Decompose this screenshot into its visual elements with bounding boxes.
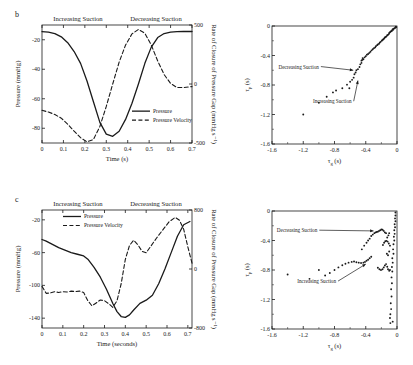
y-tick-label: -20 xyxy=(32,217,40,223)
x-tick-label: 0.1 xyxy=(60,146,68,152)
y-tick-label: -1.6 xyxy=(261,326,271,332)
scatter-point xyxy=(389,313,391,315)
scatter-point xyxy=(366,260,368,262)
annotation-label: Decreasing Suction xyxy=(278,64,319,70)
scatter-point xyxy=(392,321,394,323)
scatter-point xyxy=(385,263,387,265)
scatter-point xyxy=(393,236,395,238)
scatter-point xyxy=(351,261,353,263)
annotation-arrow xyxy=(338,264,366,281)
figure-svg: bIncreasing SuctionDecreasing Suction00.… xyxy=(0,0,413,365)
scatter-point xyxy=(383,242,385,244)
scatter-point xyxy=(353,73,355,75)
scatter-point xyxy=(382,244,384,246)
scatter-point xyxy=(389,317,391,319)
scatter-point xyxy=(353,77,355,79)
scatter-point xyxy=(394,223,396,225)
scatter-point xyxy=(394,212,396,214)
scatter-point xyxy=(384,265,386,267)
scatter-point xyxy=(386,237,388,239)
scatter-point xyxy=(348,87,350,89)
x-tick-label: 0.5 xyxy=(145,146,153,152)
y2-tick-label: 800 xyxy=(194,207,203,213)
x-tick-label: -1.6 xyxy=(267,332,277,338)
scatter-point xyxy=(393,253,395,255)
x-tick-label: 0.2 xyxy=(80,331,88,337)
x-tick-label: -1.6 xyxy=(267,147,277,153)
y-tick-label: -80 xyxy=(32,125,40,131)
scatter-point xyxy=(394,226,396,228)
series-dashed xyxy=(42,217,192,307)
y-tick-label: -100 xyxy=(29,282,40,288)
y-tick-label: -0.8 xyxy=(261,267,271,273)
scatter-point xyxy=(344,263,346,265)
scatter-point xyxy=(372,234,374,236)
scatter-point xyxy=(388,251,390,253)
scatter-point xyxy=(364,56,366,58)
x-tick-label: -0.8 xyxy=(330,332,340,338)
scatter-point xyxy=(367,259,369,261)
y2-tick-label: -500 xyxy=(194,140,205,146)
y-tick-label: -60 xyxy=(32,96,40,102)
scatter-point xyxy=(388,232,390,234)
scatter-point xyxy=(391,266,393,268)
series-dashed xyxy=(42,29,192,141)
scatter-point xyxy=(366,242,368,244)
scatter-point xyxy=(362,262,364,264)
scatter-point xyxy=(302,114,304,116)
scatter-point xyxy=(341,264,343,266)
scatter-point xyxy=(332,91,334,93)
scatter-point xyxy=(393,240,395,242)
x-tick-label: 0.6 xyxy=(163,331,171,337)
scatter-point xyxy=(355,72,357,74)
scatter-point xyxy=(287,273,289,275)
scatter-point xyxy=(388,243,390,245)
y-tick-label: -60 xyxy=(32,250,40,256)
x-axis-label-tau-g: τg (s) xyxy=(328,342,342,351)
x-axis-label: Time (s) xyxy=(106,155,128,163)
x-tick-label: -1.2 xyxy=(299,332,309,338)
x-axis-label: Time (seconds) xyxy=(97,340,138,348)
scatter-point xyxy=(389,245,391,247)
x-tick-label: -0.4 xyxy=(361,332,371,338)
figure-root: bIncreasing SuctionDecreasing Suction00.… xyxy=(0,0,413,365)
scatter-point xyxy=(394,233,396,235)
scatter-point xyxy=(387,234,389,236)
scatter-point xyxy=(382,268,384,270)
scatter-point xyxy=(361,60,363,62)
scatter-point xyxy=(363,245,365,247)
scatter-point xyxy=(394,217,396,219)
scatter-point xyxy=(341,87,343,89)
panel-label-panel-b-timeseries: b xyxy=(15,10,19,19)
scatter-point xyxy=(389,269,391,271)
scatter-point xyxy=(359,66,361,68)
x-tick-label: 0 xyxy=(396,332,399,338)
scatter-point xyxy=(355,69,357,71)
y2-axis-label: Rate of Closure of Pressure Gap (mmHg s⁻… xyxy=(210,209,218,329)
scatter-point xyxy=(318,269,320,271)
scatter-point xyxy=(392,248,394,250)
scatter-point xyxy=(394,214,396,216)
scatter-point xyxy=(361,248,363,250)
scatter-point xyxy=(384,231,386,233)
y2-tick-label: 500 xyxy=(194,22,203,28)
scatter-point xyxy=(358,262,360,264)
scatter-point xyxy=(324,275,326,277)
y-tick-label: -140 xyxy=(29,315,40,321)
scatter-point xyxy=(395,26,397,28)
scatter-point xyxy=(370,256,372,258)
x-tick-label: 0.2 xyxy=(81,146,89,152)
y-tick-label: -0.4 xyxy=(261,53,271,59)
annotation-label: Decreasing Suction xyxy=(277,227,318,233)
y-axis-label: Pressure (mmHg) xyxy=(14,246,22,293)
scatter-point xyxy=(349,81,351,83)
scatter-point xyxy=(393,243,395,245)
x-axis-label-tau-g: τg (s) xyxy=(328,157,342,166)
y-tick-label: -1.2 xyxy=(261,112,271,118)
y-tick-label: -1.2 xyxy=(261,297,271,303)
scatter-point xyxy=(391,282,393,284)
x-tick-label: 0 xyxy=(396,147,399,153)
y-axis-label: Pressure (mmHg) xyxy=(14,61,22,108)
scatter-point xyxy=(353,261,355,263)
scatter-point xyxy=(389,322,391,324)
